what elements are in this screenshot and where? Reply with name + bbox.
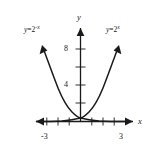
left-curve-equation-label: y=2-x — [24, 26, 40, 34]
right-eqn-exponent: x — [117, 24, 119, 30]
exponential-functions-figure: y x 8 4 -3 3 y=2-x y=2x — [0, 0, 158, 154]
graph-canvas — [0, 0, 158, 154]
curve-two-pow-neg-x — [40, 45, 125, 122]
left-eqn-exponent: -x — [35, 24, 39, 30]
y-axis — [77, 28, 85, 122]
curve-two-pow-x — [37, 45, 122, 122]
x-axis-label: x — [138, 117, 142, 126]
right-curve-equation-label: y=2x — [106, 26, 120, 34]
x-tick-label-neg3: -3 — [41, 133, 48, 141]
y-tick-label-4: 4 — [64, 81, 68, 89]
y-axis-label: y — [77, 13, 81, 22]
y-tick-label-8: 8 — [64, 45, 68, 53]
x-tick-label-3: 3 — [119, 133, 123, 141]
